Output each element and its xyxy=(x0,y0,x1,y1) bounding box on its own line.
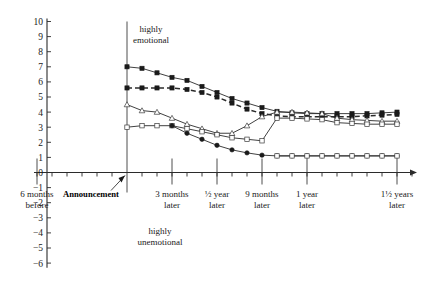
series-filled-square-point xyxy=(140,66,144,70)
series-open-square-point xyxy=(200,130,204,134)
series-flat-open-square xyxy=(275,154,399,158)
highly-unemotional-line1: highly xyxy=(148,226,172,236)
series-flat-open-square-point xyxy=(395,154,399,158)
y-axis-tick-labels: 109876543210−1−2−3−4−5−6 xyxy=(33,17,43,269)
x-tick-label: 1½ years xyxy=(381,189,414,199)
series-filled-square-point xyxy=(200,84,204,88)
series-dashed-point xyxy=(170,86,174,90)
series-filled-circle-point xyxy=(185,131,189,135)
x-tick-label-line2: before xyxy=(26,200,49,210)
series-open-triangle-point xyxy=(244,123,250,128)
y-tick-label: −3 xyxy=(33,213,43,223)
series-dashed-point xyxy=(140,86,144,90)
x-tick-label: 1 year xyxy=(296,189,318,199)
x-tick-label: 9 months xyxy=(245,189,279,199)
series-filled-square-point xyxy=(245,101,249,105)
series-open-square-point xyxy=(185,127,189,131)
series-dashed-point xyxy=(380,113,384,117)
series-flat-open-square-point xyxy=(305,154,309,158)
series-open-square-point xyxy=(275,116,279,120)
y-tick-label: 7 xyxy=(38,62,43,72)
series-filled-square-point xyxy=(215,90,219,94)
series-filled-circle-point xyxy=(170,123,174,127)
y-tick-label: 0 xyxy=(38,168,43,178)
series-filled-square xyxy=(125,65,399,116)
y-tick-label: −5 xyxy=(33,243,43,253)
highly-emotional-line1: highly xyxy=(139,24,163,34)
series-filled-square-point xyxy=(185,78,189,82)
series-filled-square-point xyxy=(230,96,234,100)
series-flat-open-square-point xyxy=(350,154,354,158)
series-group xyxy=(124,65,400,158)
series-open-square-point xyxy=(395,122,399,126)
series-dashed-point xyxy=(215,95,219,99)
series-filled-square-point xyxy=(125,65,129,69)
series-open-square-point xyxy=(260,139,264,143)
series-open-triangle-point xyxy=(124,102,130,107)
x-tick-label-line2: later xyxy=(164,200,180,210)
series-open-square-point xyxy=(140,123,144,127)
series-filled-circle-point xyxy=(260,153,264,157)
series-filled-square-point xyxy=(170,75,174,79)
series-filled-circle xyxy=(170,123,399,158)
x-tick-label-line2: later xyxy=(299,200,315,210)
x-gridlines xyxy=(37,22,397,193)
x-tick-label-line2: later xyxy=(389,200,405,210)
y-tick-label: 6 xyxy=(38,77,43,87)
series-filled-square-point xyxy=(155,71,159,75)
series-filled-square-point xyxy=(260,105,264,109)
series-open-square-point xyxy=(350,121,354,125)
series-open-square-point xyxy=(305,117,309,121)
x-tick-label: 3 months xyxy=(155,189,189,199)
series-dashed-point xyxy=(155,86,159,90)
x-tick-label: 6 months xyxy=(20,189,54,199)
annotation-group: highlyemotionalhighlyunemotional xyxy=(111,24,183,247)
series-flat-open-square-point xyxy=(290,154,294,158)
series-dashed-point xyxy=(125,86,129,90)
chart-canvas: 109876543210−1−2−3−4−5−6 6 monthsbeforeA… xyxy=(0,0,426,281)
series-open-square-line xyxy=(127,118,397,141)
x-axis-tick-labels: 6 monthsbeforeAnnouncement3 monthslater½… xyxy=(20,189,413,210)
axes xyxy=(34,18,417,267)
series-open-square-point xyxy=(245,137,249,141)
series-open-square-point xyxy=(215,133,219,137)
series-filled-circle-point xyxy=(215,143,219,147)
y-axis-ticks xyxy=(47,22,51,264)
series-open-square-point xyxy=(125,125,129,129)
series-open-triangle-point xyxy=(184,121,190,126)
series-flat-open-square-point xyxy=(365,154,369,158)
highly-unemotional-line2: unemotional xyxy=(138,237,183,247)
series-flat-open-square-point xyxy=(380,154,384,158)
series-open-square-point xyxy=(365,122,369,126)
highly-emotional-line2: emotional xyxy=(133,35,169,45)
y-tick-label: 4 xyxy=(38,108,43,118)
series-open-square-point xyxy=(320,117,324,121)
series-flat-open-square-point xyxy=(335,154,339,158)
series-filled-circle-point xyxy=(245,151,249,155)
x-tick-label-line2: later xyxy=(254,200,270,210)
y-tick-label: 3 xyxy=(38,123,43,133)
series-open-triangle-point xyxy=(169,115,175,120)
y-tick-label: −4 xyxy=(33,228,43,238)
series-open-square-point xyxy=(290,116,294,120)
series-dashed-point xyxy=(230,101,234,105)
emotion-over-time-line-chart: 109876543210−1−2−3−4−5−6 6 monthsbeforeA… xyxy=(0,0,426,281)
series-flat-open-square-point xyxy=(320,154,324,158)
y-tick-label: 8 xyxy=(38,47,43,57)
y-tick-label: 2 xyxy=(38,138,43,148)
series-open-square-point xyxy=(155,123,159,127)
x-axis-arrow xyxy=(410,170,417,176)
y-tick-label: 1 xyxy=(38,153,43,163)
series-flat-open-square-point xyxy=(275,154,279,158)
y-tick-label: 5 xyxy=(38,92,43,102)
x-tick-label: ½ year xyxy=(205,189,230,199)
x-tick-label: Announcement xyxy=(63,189,119,199)
x-tick-label-line2: later xyxy=(209,200,225,210)
y-tick-label: 9 xyxy=(38,32,43,42)
series-open-square-point xyxy=(335,120,339,124)
y-tick-label: −6 xyxy=(33,259,43,269)
series-open-square-point xyxy=(380,122,384,126)
series-open-triangle-point xyxy=(139,108,145,113)
series-dashed-point xyxy=(245,107,249,111)
series-open-square-point xyxy=(230,136,234,140)
